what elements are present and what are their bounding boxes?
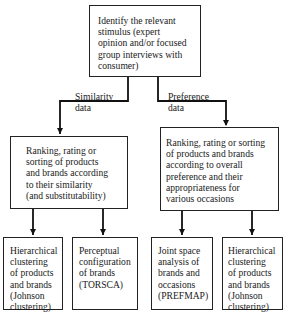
similarity-ranking-text: Ranking, rating or sorting of products a… (26, 145, 123, 201)
preference-ranking-text: Ranking, rating or sorting of products a… (166, 137, 275, 204)
similarity-ranking-box: Ranking, rating or sorting of products a… (10, 136, 128, 209)
perceptual-configuration-text: Perceptual configuration of brands (TORS… (79, 245, 135, 290)
similarity-data-label: Similarity data (75, 91, 113, 113)
stimulus-box: Identify the relevant stimulus (expert o… (89, 5, 201, 77)
hierarchical-clustering-left-box: Hierarchical clustering of products and … (3, 237, 63, 310)
joint-space-analysis-box: Joint space analysis of brands and occas… (151, 237, 213, 310)
hierarchical-clustering-right-box: Hierarchical clustering of products and … (222, 237, 283, 310)
perceptual-configuration-box: Perceptual configuration of brands (TORS… (72, 237, 138, 310)
preference-ranking-box: Ranking, rating or sorting of products a… (160, 127, 279, 211)
preference-data-label: Preference data (168, 91, 209, 113)
hierarchical-clustering-left-text: Hierarchical clustering of products and … (10, 245, 60, 312)
hierarchical-clustering-right-text: Hierarchical clustering of products and … (228, 245, 280, 312)
joint-space-analysis-text: Joint space analysis of brands and occas… (158, 245, 210, 301)
stimulus-text: Identify the relevant stimulus (expert o… (98, 15, 196, 71)
